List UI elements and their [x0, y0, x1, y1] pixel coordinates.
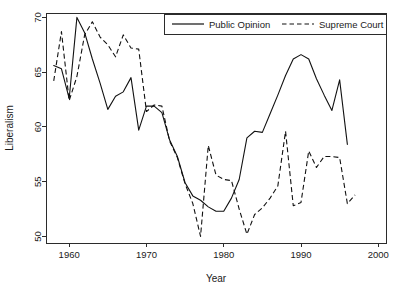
x-axis-tick-label: 1980	[213, 249, 234, 260]
y-axis-title: Liberalism	[4, 105, 15, 151]
line-chart: 196019701980199020005055606570 Public Op…	[0, 0, 407, 288]
y-axis-tick-label: 50	[32, 231, 43, 242]
x-axis-tick-label: 2000	[368, 249, 389, 260]
x-axis-title: Year	[206, 273, 227, 284]
x-axis-tick-label: 1970	[136, 249, 157, 260]
y-axis-tick-label: 70	[32, 12, 43, 23]
legend-label-supreme-court[interactable]: Supreme Court	[319, 19, 384, 30]
x-axis-tick-label: 1960	[59, 249, 80, 260]
y-axis-tick-label: 65	[32, 67, 43, 78]
y-axis-tick-label: 60	[32, 122, 43, 133]
plot-frame	[46, 13, 386, 243]
chart-legend[interactable]: Public OpinionSupreme Court	[164, 14, 386, 34]
series-line-public-opinion	[54, 17, 348, 211]
y-axis-tick-label: 55	[32, 176, 43, 187]
axes-group: 196019701980199020005055606570	[32, 12, 388, 260]
series-group	[54, 17, 355, 236]
x-axis-tick-label: 1990	[290, 249, 311, 260]
legend-label-public-opinion[interactable]: Public Opinion	[209, 19, 270, 30]
chart-container: 196019701980199020005055606570 Public Op…	[0, 0, 407, 288]
